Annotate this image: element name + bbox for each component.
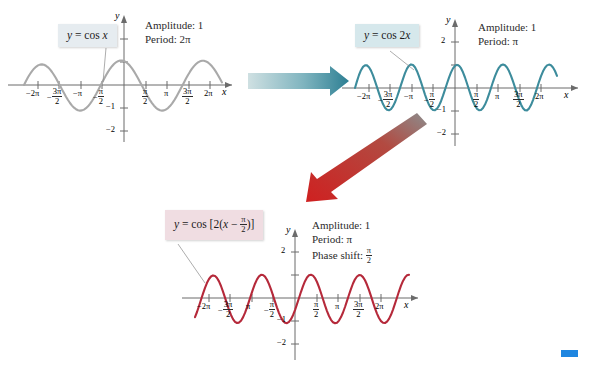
amplitude-line: Amplitude: 1 bbox=[145, 18, 203, 32]
period-label: Period: bbox=[312, 233, 344, 245]
x-tick-label: −π bbox=[73, 88, 82, 98]
amplitude-label: Amplitude: bbox=[312, 219, 362, 231]
period-line: Period: π bbox=[312, 232, 372, 246]
x-axis-label: x bbox=[404, 299, 408, 310]
x-tick-label: π2 bbox=[313, 299, 319, 318]
x-axis-arrowhead bbox=[411, 295, 418, 301]
x-tick-label: −π2 bbox=[424, 89, 435, 108]
x-tick-label: 3π2 bbox=[513, 89, 524, 108]
y-tick-label: −2 bbox=[437, 127, 446, 137]
period-line: Period: 2π bbox=[145, 32, 203, 46]
y-axis-label: y bbox=[115, 10, 119, 21]
x-tick-label: π bbox=[164, 88, 168, 98]
x-tick-label: 2π bbox=[535, 91, 544, 101]
amplitude-value: 1 bbox=[198, 19, 204, 31]
phase-shift-line: Phase shift: π2 bbox=[312, 246, 372, 265]
x-tick-label: −3π2 bbox=[47, 86, 62, 105]
y-tick-label: 2 bbox=[281, 245, 285, 255]
x-tick-label: π bbox=[246, 301, 250, 311]
x-tick-label: −π2 bbox=[93, 86, 104, 105]
amplitude-line: Amplitude: 1 bbox=[312, 218, 372, 232]
period-label: Period: bbox=[145, 33, 177, 45]
period-line: Period: π bbox=[478, 34, 536, 48]
y-tick-label: −1 bbox=[437, 104, 446, 114]
x-tick-label: −3π2 bbox=[218, 299, 233, 318]
x-axis-label: x bbox=[222, 86, 226, 97]
x-tick-label: −2π bbox=[197, 301, 210, 311]
x-tick-label: 3π2 bbox=[182, 86, 193, 105]
panel-cos-2x-shift: −2π −3π2 π −π2 π2 π 3π2 2π x y 2 −1 −2 y… bbox=[160, 200, 450, 378]
y-tick-label: −1 bbox=[277, 314, 286, 324]
amplitude-value: 1 bbox=[365, 219, 371, 231]
period-value: π bbox=[513, 35, 519, 47]
equation-label-cos-2x-shift: y = cos [2(x − π2)] bbox=[165, 210, 263, 240]
phase-shift-label: Phase shift: bbox=[312, 249, 363, 261]
x-tick-label: −2π bbox=[357, 91, 370, 101]
y-axis-label: y bbox=[446, 14, 450, 25]
x-tick-label: π2 bbox=[142, 86, 148, 105]
amplitude-label: Amplitude: bbox=[145, 19, 195, 31]
y-tick-label: 2 bbox=[441, 35, 445, 45]
x-tick-label: π2 bbox=[473, 89, 479, 108]
x-tick-label: −π2 bbox=[264, 299, 275, 318]
y-tick-label: −2 bbox=[106, 124, 115, 134]
y-axis-label: y bbox=[286, 224, 290, 235]
x-tick-label: 2π bbox=[375, 301, 384, 311]
x-tick-label: −π bbox=[404, 91, 413, 101]
x-tick-label: π bbox=[335, 301, 339, 311]
equation-label-cos-x: y = cos x bbox=[58, 24, 117, 47]
x-tick-label: −3π2 bbox=[378, 89, 393, 108]
x-tick-label: −2π bbox=[26, 88, 39, 98]
y-tick-label: −1 bbox=[106, 101, 115, 111]
x-axis-label: x bbox=[564, 89, 568, 100]
x-axis-arrowhead bbox=[571, 85, 578, 91]
phase-shift-value: π2 bbox=[366, 246, 372, 265]
info-panel-3: Amplitude: 1 Period: π Phase shift: π2 bbox=[312, 218, 372, 265]
graph-cos-2x bbox=[330, 0, 599, 148]
amplitude-label: Amplitude: bbox=[478, 21, 528, 33]
period-value: 2π bbox=[180, 33, 191, 45]
equation-label-cos-2x: y = cos 2x bbox=[355, 24, 419, 47]
info-panel-2: Amplitude: 1 Period: π bbox=[478, 20, 536, 48]
period-value: π bbox=[347, 233, 353, 245]
info-panel-1: Amplitude: 1 Period: 2π bbox=[145, 18, 203, 46]
amplitude-value: 1 bbox=[531, 21, 537, 33]
y-axis-arrowhead bbox=[292, 229, 298, 237]
panel-cos-x: −2π −3π2 −π −π2 π2 π 3π2 2π x y 2 −1 −2 … bbox=[0, 0, 250, 145]
period-label: Period: bbox=[478, 35, 510, 47]
panel-cos-2x: −2π −3π2 −π −π2 π2 π 3π2 2π x y 2 −1 −2 … bbox=[330, 0, 599, 148]
y-axis-arrowhead bbox=[452, 19, 458, 27]
x-tick-label: 3π2 bbox=[353, 299, 364, 318]
amplitude-line: Amplitude: 1 bbox=[478, 20, 536, 34]
blue-marker bbox=[561, 350, 578, 357]
x-tick-label: 2π bbox=[204, 88, 213, 98]
x-tick-label: π bbox=[495, 91, 499, 101]
y-tick-label: −2 bbox=[277, 337, 286, 347]
y-axis-arrowhead bbox=[121, 15, 127, 23]
graph-cos-x bbox=[0, 0, 250, 145]
